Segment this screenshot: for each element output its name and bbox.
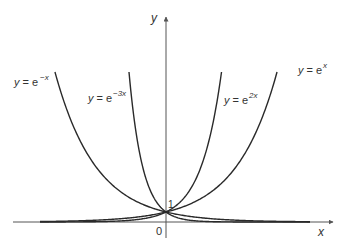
exponential-diagram: y x 0 1 y = e −x y = e −3x y = e 2x y = … [0, 0, 341, 247]
y-axis-label: y [150, 11, 158, 25]
exponent-e-x: x [322, 61, 328, 70]
label-e-neg-3x: y = e [87, 92, 112, 104]
label-e-2x: y = e [223, 94, 248, 106]
exponent-e-neg-3x: −3x [113, 89, 127, 98]
intercept-label: 1 [168, 199, 174, 210]
exponent-e-neg-x: −x [40, 73, 50, 82]
curves [40, 72, 310, 222]
x-axis-label: x [317, 225, 325, 239]
label-e-x: y = e [297, 64, 322, 76]
label-e-neg-x: y = e [13, 76, 38, 88]
curve-e-neg-3x [129, 72, 310, 222]
origin-label: 0 [156, 225, 162, 237]
exponent-e-2x: 2x [248, 91, 258, 100]
